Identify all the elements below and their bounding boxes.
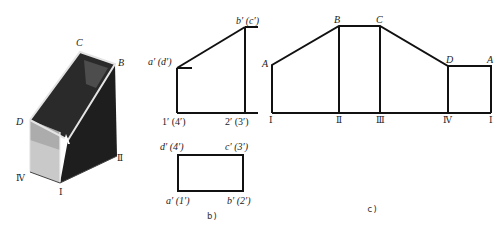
label-dev-b: B [334,15,340,25]
label-dev-iii: Ⅲ [376,116,385,125]
label-front-top-right: b′ (c′) [236,16,259,26]
label-top-top-left: d′ (4′) [160,142,184,152]
front-view [177,27,258,113]
label-front-bottom-left: 1′ (4′) [162,117,186,127]
caption-c: c) [367,205,378,214]
label-dev-a-right: A [487,55,493,65]
label-top-bottom-right: b′ (2′) [227,196,251,206]
label-dev-a-left: A [262,59,268,69]
label-dev-i-left: Ⅰ [269,116,273,125]
label-dev-ii: Ⅱ [336,116,342,125]
label-vertex-iv: Ⅳ [16,174,25,183]
label-dev-iv: Ⅳ [443,116,452,125]
label-top-top-right: c′ (3′) [225,142,248,152]
diagram-canvas [0,0,504,239]
label-vertex-d: D [16,117,23,127]
label-dev-c: C [376,15,383,25]
development-view [272,26,491,113]
top-view [178,155,243,191]
caption-b: b) [207,212,218,221]
label-vertex-c: C [76,38,83,48]
label-front-top-left: a′ (d′) [148,57,172,67]
isometric-prism [30,52,117,183]
label-dev-d: D [446,55,453,65]
label-vertex-ii: Ⅱ [117,154,123,163]
label-front-bottom-right: 2′ (3′) [225,117,249,127]
label-vertex-i: Ⅰ [59,188,63,197]
label-vertex-b: B [118,58,124,68]
label-top-bottom-left: a′ (1′) [166,196,190,206]
label-dev-i-right: Ⅰ [489,116,493,125]
